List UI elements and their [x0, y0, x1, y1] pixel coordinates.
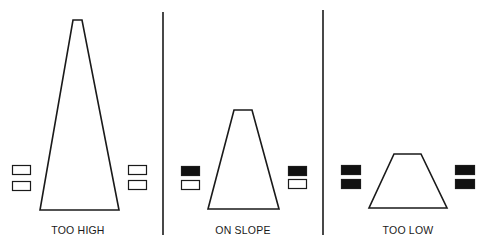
vasi-light-right-upwind-red	[289, 167, 307, 176]
vasi-light-left-upwind-red	[182, 167, 200, 176]
panel-label-too-high: TOO HIGH	[18, 224, 138, 236]
panel-label-on-slope: ON SLOPE	[183, 224, 303, 236]
vasi-light-right-downwind-red	[456, 180, 475, 189]
runway-shape	[40, 20, 119, 210]
panel-too-high	[13, 20, 147, 210]
vasi-diagram	[0, 0, 482, 247]
vasi-light-left-upwind-red	[342, 166, 361, 175]
runway-shape	[208, 110, 279, 209]
panel-label-too-low: TOO LOW	[348, 224, 468, 236]
vasi-light-left-downwind-red	[342, 180, 361, 189]
vasi-light-left-downwind-white	[182, 181, 200, 190]
vasi-light-right-upwind-red	[456, 166, 475, 175]
vasi-light-left-upwind-white	[13, 166, 31, 175]
vasi-light-right-upwind-white	[129, 166, 147, 175]
panel-too-low	[342, 154, 475, 208]
vasi-light-right-downwind-white	[129, 181, 147, 190]
runway-shape	[369, 154, 447, 208]
vasi-light-right-downwind-white	[289, 180, 307, 189]
panel-on-slope	[182, 110, 307, 209]
vasi-light-left-downwind-white	[13, 182, 31, 191]
